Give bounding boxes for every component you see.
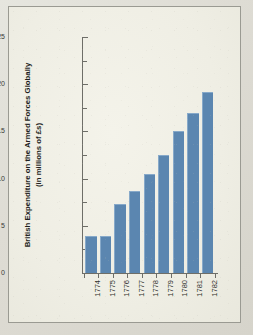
y-tick-label: 25 xyxy=(0,33,5,40)
plot-area: 0510152025 17741775177617771778177917801… xyxy=(9,7,242,324)
x-tick xyxy=(156,274,157,278)
y-tick-major xyxy=(83,179,88,180)
x-tick xyxy=(98,274,99,278)
chart-panel: 0510152025 17741775177617771778177917801… xyxy=(8,6,241,323)
x-tick-label: 1774 xyxy=(94,280,102,297)
x-tick-label: 1775 xyxy=(109,280,117,297)
x-tick xyxy=(200,274,201,278)
y-tick-minor xyxy=(83,61,87,62)
y-tick-label: 5 xyxy=(1,222,5,229)
y-tick-label: 10 xyxy=(0,175,5,182)
bar xyxy=(187,113,198,273)
y-tick-label: 15 xyxy=(0,127,5,134)
bar xyxy=(100,236,111,273)
x-tick-label: 1778 xyxy=(152,280,160,297)
bar xyxy=(129,191,140,273)
x-tick xyxy=(84,274,85,278)
y-axis-title-line1: British Expenditure on the Armed Forces … xyxy=(23,63,32,248)
x-tick xyxy=(215,274,216,278)
x-tick xyxy=(113,274,114,278)
y-tick-label: 20 xyxy=(0,80,5,87)
x-tick xyxy=(171,274,172,278)
bar xyxy=(114,204,125,273)
x-tick-label: 1780 xyxy=(181,280,189,297)
y-tick-major xyxy=(83,84,88,85)
x-tick xyxy=(142,274,143,278)
bar xyxy=(144,174,155,273)
x-tick xyxy=(186,274,187,278)
x-tick-label: 1781 xyxy=(196,280,204,297)
chart-page: 0510152025 17741775177617771778177917801… xyxy=(0,0,253,335)
y-axis-title-line2: (in millions of £s) xyxy=(34,41,45,269)
x-tick xyxy=(127,274,128,278)
y-axis-title: British Expenditure on the Armed Forces … xyxy=(23,41,45,269)
bar xyxy=(158,155,169,273)
y-tick-minor xyxy=(83,202,87,203)
bar xyxy=(202,92,213,273)
x-tick-label: 1779 xyxy=(167,280,175,297)
bar xyxy=(85,236,96,273)
x-axis-line xyxy=(82,273,218,274)
y-tick-major xyxy=(83,226,88,227)
bar xyxy=(173,131,184,273)
y-tick-label: 0 xyxy=(1,269,5,276)
x-tick-label: 1777 xyxy=(138,280,146,297)
x-tick-label: 1782 xyxy=(211,280,219,297)
x-tick-label: 1776 xyxy=(123,280,131,297)
y-tick-major xyxy=(83,131,88,132)
y-tick-minor xyxy=(83,155,87,156)
y-tick-major xyxy=(83,37,88,38)
y-tick-minor xyxy=(83,108,87,109)
